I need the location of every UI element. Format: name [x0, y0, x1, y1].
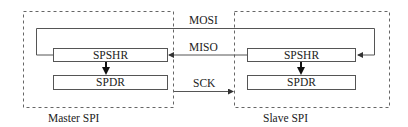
master-spi-label: Master SPI — [48, 113, 99, 125]
mosi-label: MOSI — [189, 15, 218, 27]
slave-spi-label: Slave SPI — [263, 113, 308, 125]
sck-label: SCK — [193, 78, 215, 90]
miso-label: MISO — [189, 42, 218, 54]
master-spshr-label: SPSHR — [54, 49, 167, 62]
slave-spshr-label: SPSHR — [248, 49, 355, 62]
master-spdr-label: SPDR — [54, 76, 167, 89]
slave-spdr-label: SPDR — [248, 76, 355, 89]
